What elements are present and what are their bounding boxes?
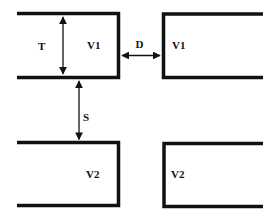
diagram-canvas: T D S V1 V1 V2 V2 — [0, 0, 278, 220]
channel-label-top-right: V1 — [172, 39, 185, 51]
channel-bottom-left — [17, 143, 119, 206]
horizontal-gap-label: D — [136, 38, 144, 50]
channel-label-top-left: V1 — [87, 39, 100, 51]
diagram-svg: T D S V1 V1 V2 V2 — [0, 0, 278, 220]
vertical-gap-label: S — [83, 111, 89, 123]
channel-top-left — [17, 14, 119, 78]
channel-label-bottom-left: V2 — [86, 168, 100, 180]
thickness-label: T — [38, 40, 46, 52]
channel-label-bottom-right: V2 — [171, 168, 185, 180]
